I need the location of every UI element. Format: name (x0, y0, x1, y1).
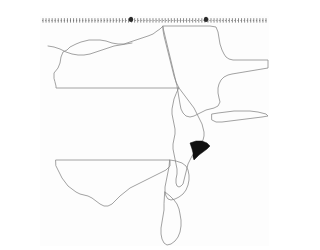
map-background (40, 16, 269, 246)
map-canvas (40, 16, 269, 246)
locator-map-figure: Mid-Atlantic United States locator map (40, 16, 269, 246)
top-marker-right (204, 17, 208, 22)
top-marker-left (129, 17, 133, 22)
